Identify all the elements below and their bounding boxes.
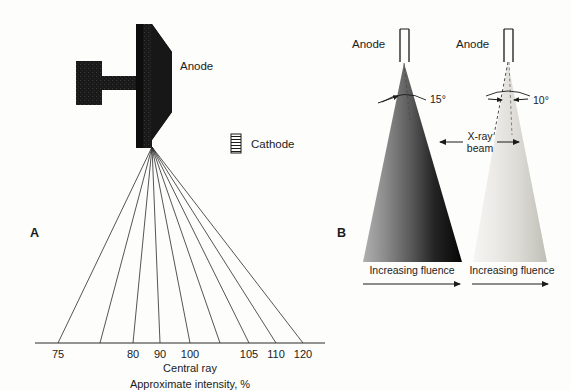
angle-label-15deg: 15° — [430, 93, 446, 105]
tick-label-120: 120 — [294, 348, 312, 360]
tick-label-100: 100 — [181, 348, 199, 360]
angle-label-10deg: 10° — [533, 94, 549, 106]
anode-label-steep: Anode — [352, 38, 385, 50]
xray-beam-label-line1: X-ray — [467, 130, 493, 142]
xray-beam-label-line2: beam — [467, 142, 494, 154]
anode-support-block — [76, 61, 102, 105]
fluence-label-steep: Increasing fluence — [369, 264, 454, 276]
tick-label-105: 105 — [240, 348, 258, 360]
central-ray-caption: Central ray — [163, 362, 217, 374]
figure-canvas: Anode Cathode 75 80 90 — [0, 0, 571, 391]
intensity-caption: Approximate intensity, % — [130, 378, 250, 390]
cathode-label: Cathode — [251, 138, 294, 150]
panel-label-a: A — [30, 226, 39, 240]
anode-label-a: Anode — [180, 60, 213, 72]
tick-label-90: 90 — [154, 348, 166, 360]
anode-stem — [100, 76, 140, 90]
panel-label-b: B — [337, 226, 346, 240]
anode-front-face — [136, 24, 143, 148]
tick-label-75: 75 — [52, 348, 64, 360]
fluence-label-shallow: Increasing fluence — [469, 264, 554, 276]
figure-svg: Anode Cathode 75 80 90 — [0, 0, 571, 391]
tick-label-80: 80 — [127, 348, 139, 360]
tick-label-110: 110 — [267, 348, 285, 360]
anode-label-shallow: Anode — [456, 38, 489, 50]
